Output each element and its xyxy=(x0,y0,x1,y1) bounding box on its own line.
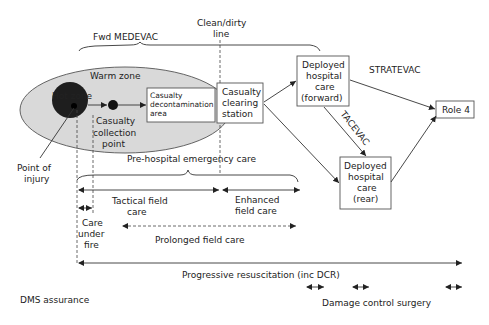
rear-label-4: (rear) xyxy=(353,194,378,204)
decon-label-1: Casualty xyxy=(150,91,183,100)
dms-assurance-label: DMS assurance xyxy=(20,295,90,305)
enhanced-label-1: Enhanced xyxy=(235,195,280,205)
fwd-medevac-label: Fwd MEDEVAC xyxy=(93,32,158,42)
decon-label-3: area xyxy=(150,109,167,118)
decon-label-2: decontamination xyxy=(150,100,214,109)
rear-label-2: hospital xyxy=(348,172,384,182)
hot-zone-label: Hot zone xyxy=(52,91,93,101)
ccp-label-1: Casualty xyxy=(96,116,136,126)
cuf-label-1: Care xyxy=(82,218,103,228)
stratevac-label: STRATEVAC xyxy=(369,65,421,75)
fwd-to-role4-stratevac-arrow xyxy=(350,80,435,109)
role-4-label: Role 4 xyxy=(442,105,470,115)
cuf-label-2: under xyxy=(78,229,105,239)
fwd-label-1: Deployed xyxy=(302,60,345,70)
ccs-label-3: station xyxy=(222,109,253,119)
tacevac-label: TACEVAC xyxy=(338,108,372,147)
pre-hospital-label: Pre-hospital emergency care xyxy=(127,154,257,164)
fwd-medevac-brace xyxy=(79,42,320,51)
rear-to-role4-arrow xyxy=(391,116,436,182)
prolonged-label: Prolonged field care xyxy=(155,235,245,245)
clean-dirty-label-2: line xyxy=(213,29,230,39)
fwd-label-2: hospital xyxy=(306,71,342,81)
ccs-label-1: Casualty xyxy=(222,87,262,97)
enhanced-label-2: field care xyxy=(235,206,277,216)
cuf-label-3: fire xyxy=(84,240,99,250)
tactical-label-2: care xyxy=(127,207,147,217)
dcs-label: Damage control surgery xyxy=(322,298,432,308)
ccp-label-3: point xyxy=(102,139,125,149)
warm-zone-label: Warm zone xyxy=(90,71,141,81)
pre-hospital-brace xyxy=(77,170,298,182)
clean-dirty-label-1: Clean/dirty xyxy=(197,18,247,28)
ccs-to-rear-arrow xyxy=(264,104,339,183)
casualty-collection-point-dot xyxy=(108,100,118,110)
medical-evacuation-diagram: Warm zone Hot zone Casualty collection p… xyxy=(0,0,489,325)
fwd-label-3: care xyxy=(315,82,335,92)
point-of-injury-label-2: injury xyxy=(24,174,50,184)
rear-label-1: Deployed xyxy=(344,161,387,171)
rear-label-3: care xyxy=(357,183,377,193)
point-of-injury-label-1: Point of xyxy=(17,163,52,173)
fwd-label-4: (forward) xyxy=(301,93,343,103)
ccp-label-2: collection xyxy=(93,128,136,138)
progressive-label: Progressive resuscitation (inc DCR) xyxy=(182,270,340,280)
ccs-to-fwd-arrow xyxy=(264,81,296,102)
ccs-label-2: clearing xyxy=(222,98,258,108)
tactical-label-1: Tactical field xyxy=(111,196,168,206)
